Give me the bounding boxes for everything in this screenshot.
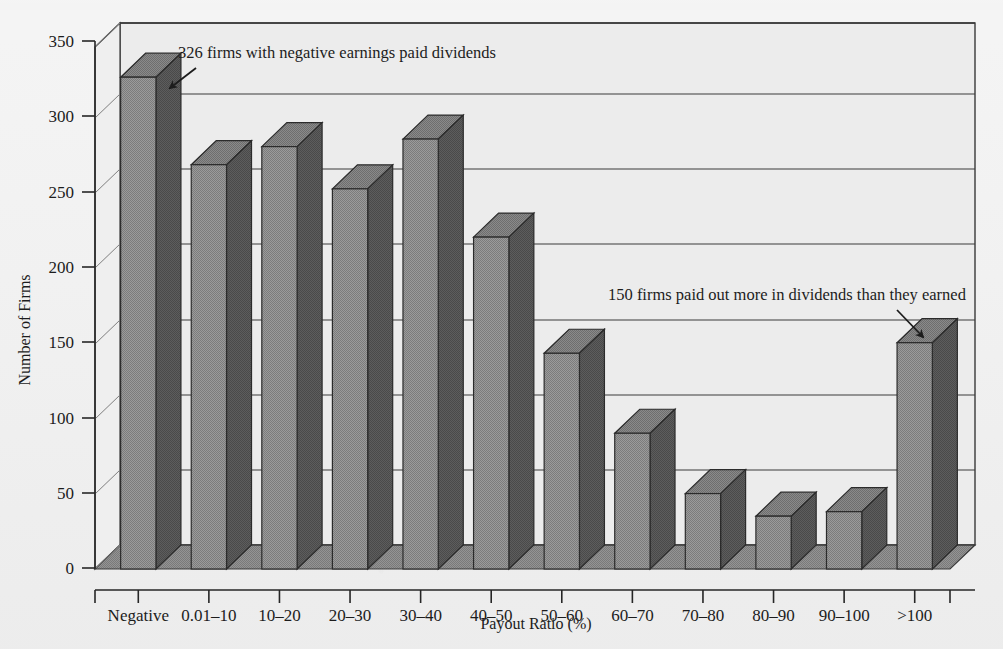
bar-side-face [509, 213, 534, 569]
bar-front-face [826, 512, 861, 569]
bar [474, 213, 534, 569]
figure-container: 350 300 250 200 150 100 50 0 Number of F… [0, 0, 1003, 649]
x-tick-label: 90–100 [819, 606, 870, 625]
bar-chart: 350 300 250 200 150 100 50 0 Number of F… [0, 0, 1003, 649]
bar-front-face [332, 189, 367, 569]
bar-side-face [650, 409, 675, 569]
y-tick-label: 50 [57, 484, 74, 503]
y-tick-label: 300 [49, 107, 75, 126]
bar-side-face [932, 319, 957, 569]
bar-front-face [756, 516, 791, 569]
y-axis-title: Number of Firms [16, 274, 33, 385]
bar [121, 53, 181, 569]
y-tick-labels: 350 300 250 200 150 100 50 0 [49, 32, 75, 578]
x-tick-label: >100 [897, 606, 932, 625]
x-axis [95, 590, 975, 603]
plot-left-wall [95, 23, 120, 569]
bar-side-face [579, 329, 604, 569]
bar [403, 115, 463, 569]
bar-front-face [474, 237, 509, 569]
annotation-text: 326 firms with negative earnings paid di… [178, 43, 496, 62]
bar-side-face [438, 115, 463, 569]
bar-front-face [262, 147, 297, 569]
bar-side-face [156, 53, 181, 569]
y-tick-label: 0 [66, 559, 75, 578]
x-tick-label: 30–40 [399, 606, 442, 625]
bar-front-face [544, 353, 579, 569]
bar [332, 165, 392, 569]
bar-side-face [227, 141, 252, 569]
y-tick-label: 100 [49, 409, 75, 428]
x-tick-label: 20–30 [329, 606, 372, 625]
bar [685, 470, 745, 569]
bar-front-face [121, 77, 156, 569]
bar-front-face [403, 139, 438, 569]
bar [262, 123, 322, 569]
bar-side-face [297, 123, 322, 569]
y-tick-label: 350 [49, 32, 75, 51]
y-tick-label: 200 [49, 258, 75, 277]
bar [897, 319, 957, 569]
bar-front-face [685, 494, 720, 569]
y-axis [82, 41, 95, 569]
bar [615, 409, 675, 569]
annotation-text: 150 firms paid out more in dividends tha… [608, 285, 967, 304]
y-tick-label: 150 [49, 333, 75, 352]
x-tick-label: 80–90 [752, 606, 795, 625]
bar-front-face [615, 433, 650, 569]
x-tick-label: Negative [108, 606, 169, 625]
x-tick-marks [95, 590, 950, 603]
x-axis-title: Payout Ratio (%) [480, 615, 591, 633]
bar-front-face [897, 343, 932, 569]
y-tick-label: 250 [49, 183, 75, 202]
x-tick-label: 70–80 [682, 606, 725, 625]
bar [544, 329, 604, 569]
x-tick-label: 0.01–10 [181, 606, 236, 625]
x-tick-label: 60–70 [611, 606, 654, 625]
x-tick-label: 10–20 [258, 606, 301, 625]
bar [191, 141, 251, 569]
bar-front-face [191, 165, 226, 569]
bar-side-face [368, 165, 393, 569]
